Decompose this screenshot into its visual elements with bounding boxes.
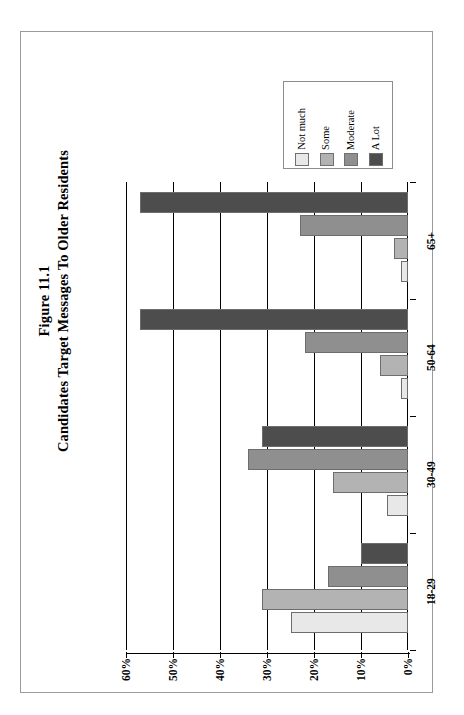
title-line-2: Candidates Target Messages To Older Resi… — [54, 91, 73, 511]
bar-group-30-49 — [105, 416, 410, 533]
legend-label-not-much: Not much — [297, 108, 308, 150]
bar-30-49-moderate[interactable] — [248, 449, 408, 470]
figure-frame: Figure 11.1 Candidates Target Messages T… — [20, 31, 433, 693]
bar-65plus-some[interactable] — [394, 238, 408, 259]
bar-row — [103, 426, 408, 447]
bar-group-18-29 — [105, 533, 410, 650]
legend-swatch-not-much — [295, 153, 309, 166]
value-tick-label-30pct: 30% — [261, 658, 273, 681]
category-tickmark — [410, 299, 416, 300]
bar-65plus-a-lot[interactable] — [140, 192, 408, 213]
bar-row — [103, 495, 408, 516]
legend-swatch-a-lot — [369, 153, 383, 166]
bar-50-64-not-much[interactable] — [401, 378, 408, 399]
bar-row — [103, 332, 408, 353]
bar-row — [103, 192, 408, 213]
legend-label-some: Some — [321, 126, 332, 150]
bar-50-64-moderate[interactable] — [305, 332, 408, 353]
legend-swatch-moderate — [344, 153, 358, 166]
bar-group-65plus — [105, 182, 410, 299]
value-tick-label-40pct: 40% — [214, 658, 226, 681]
bar-row — [103, 261, 408, 282]
legend-item-moderate: Moderate — [344, 84, 358, 166]
chart-legend: Not much Some Moderate A Lot — [283, 81, 393, 169]
bar-18-29-not-much[interactable] — [291, 612, 409, 633]
bar-row — [103, 589, 408, 610]
legend-label-moderate: Moderate — [346, 110, 357, 150]
bar-30-49-a-lot[interactable] — [262, 426, 408, 447]
bar-group-50-64 — [105, 299, 410, 416]
bar-row — [103, 612, 408, 633]
legend-item-some: Some — [320, 84, 334, 166]
category-tickmark — [410, 182, 416, 183]
bar-row — [103, 238, 408, 259]
bar-30-49-not-much[interactable] — [387, 495, 408, 516]
legend-swatch-some — [320, 153, 334, 166]
value-tick-label-60pct: 60% — [120, 658, 132, 681]
bar-65plus-moderate[interactable] — [300, 215, 408, 236]
legend-item-list: Not much Some Moderate A Lot — [284, 82, 394, 170]
bar-row — [103, 472, 408, 493]
title-line-1: Figure 11.1 — [35, 91, 54, 511]
category-label-30-49: 30-49 — [413, 416, 449, 533]
value-tick-label-20pct: 20% — [308, 658, 320, 681]
bar-row — [103, 309, 408, 330]
legend-item-a-lot: A Lot — [369, 84, 383, 166]
category-tickmark — [410, 533, 416, 534]
bar-row — [103, 215, 408, 236]
category-label-50-64: 50-64 — [413, 299, 449, 416]
category-axis-labels: 65+50-6430-4918-29 — [411, 182, 451, 652]
value-tick-label-0pct: 0% — [402, 658, 414, 675]
legend-label-a-lot: A Lot — [371, 126, 382, 150]
bar-50-64-a-lot[interactable] — [140, 309, 408, 330]
category-label-18-29: 18-29 — [413, 533, 449, 650]
bar-row — [103, 355, 408, 376]
value-tick-label-10pct: 10% — [355, 658, 367, 681]
category-label-65plus: 65+ — [413, 182, 449, 299]
page-title: Figure 11.1 Candidates Target Messages T… — [35, 91, 87, 511]
category-tickmark — [410, 650, 416, 651]
bar-30-49-some[interactable] — [333, 472, 408, 493]
category-axis-line — [126, 653, 410, 654]
bar-18-29-a-lot[interactable] — [361, 543, 408, 564]
bar-row — [103, 566, 408, 587]
value-axis-labels: 60%50%40%30%20%10%0% — [105, 658, 410, 710]
bar-50-64-some[interactable] — [380, 355, 408, 376]
bar-row — [103, 378, 408, 399]
bar-65plus-not-much[interactable] — [401, 261, 408, 282]
bar-row — [103, 543, 408, 564]
legend-item-not-much: Not much — [295, 84, 309, 166]
bar-18-29-moderate[interactable] — [328, 566, 408, 587]
category-tickmark — [410, 416, 416, 417]
plot-area — [105, 182, 410, 652]
bar-18-29-some[interactable] — [262, 589, 408, 610]
bar-row — [103, 449, 408, 470]
value-tick-label-50pct: 50% — [167, 658, 179, 681]
